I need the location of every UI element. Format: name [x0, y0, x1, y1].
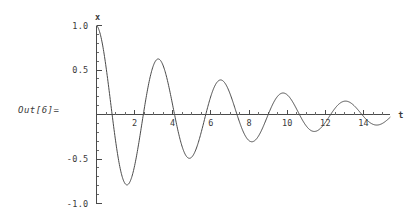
x-axis-title: t [398, 110, 403, 120]
y-axis: 1.00.5-0.5-1.0 [67, 21, 102, 209]
oscillation-curve [97, 26, 391, 185]
data-series-curve [97, 26, 391, 185]
x-tick-label: 8 [246, 118, 251, 128]
y-tick-label: -0.5 [67, 154, 89, 164]
plot-canvas: 2468101214 1.00.5-0.5-1.0 tx [0, 0, 419, 222]
x-tick-label: 6 [208, 118, 213, 128]
x-tick-label: 4 [170, 118, 175, 128]
x-tick-label: 14 [358, 118, 369, 128]
y-tick-label: 1.0 [72, 21, 88, 31]
y-tick-label: -1.0 [67, 199, 89, 209]
x-tick-label: 10 [282, 118, 293, 128]
x-tick-label: 2 [132, 118, 137, 128]
damped-oscillation-plot: 2468101214 1.00.5-0.5-1.0 tx [0, 0, 419, 222]
axis-labels: tx [95, 12, 404, 120]
y-tick-label: 0.5 [72, 65, 88, 75]
x-axis: 2468101214 [97, 110, 391, 128]
mathematica-output-cell: Out[6]= 2468101214 1.00.5-0.5-1.0 tx [0, 0, 419, 222]
y-axis-title: x [95, 12, 100, 22]
